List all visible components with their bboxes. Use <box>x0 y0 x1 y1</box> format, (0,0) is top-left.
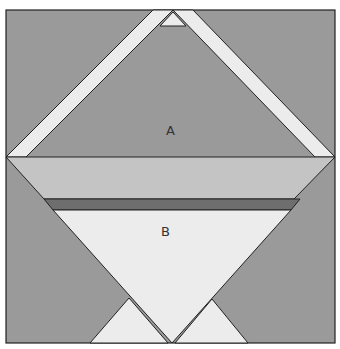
dark-strip <box>44 199 300 210</box>
quilt-diagram: A B <box>0 0 340 349</box>
label-a: A <box>166 123 175 138</box>
light-band <box>6 157 335 199</box>
label-b: B <box>161 224 170 239</box>
